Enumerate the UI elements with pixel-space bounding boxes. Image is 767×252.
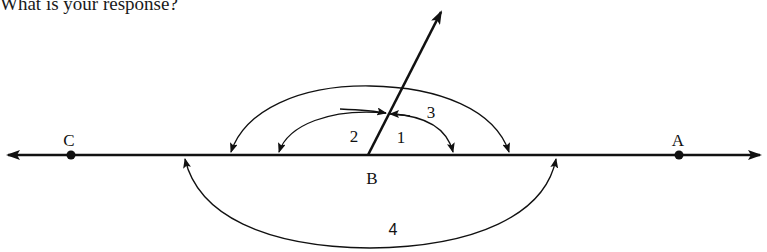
- point-c-dot: [67, 151, 76, 160]
- angle-label-4: 4: [389, 222, 398, 238]
- angle-label-3: 3: [427, 104, 436, 121]
- point-label-b: B: [366, 170, 377, 187]
- angle-4-arc-left: [185, 159, 370, 248]
- angle-4-arc-right: [370, 159, 556, 248]
- point-label-a: A: [672, 132, 684, 149]
- point-label-c: C: [63, 132, 74, 149]
- angle-diagram: [0, 0, 767, 252]
- point-a-dot: [675, 151, 684, 160]
- angle-label-2: 2: [350, 128, 359, 145]
- angle-label-1: 1: [397, 129, 406, 146]
- angle-2-arc: [279, 112, 386, 152]
- angle-3-arc-right: [370, 86, 509, 152]
- angle-1-arc-head-at-ray: [390, 114, 410, 116]
